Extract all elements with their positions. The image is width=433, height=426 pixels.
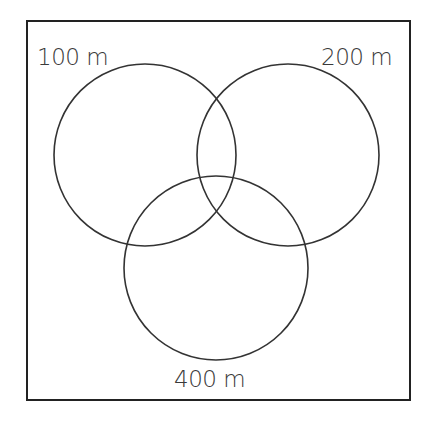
venn-diagram: 100 m 200 m 400 m — [0, 0, 433, 426]
circle-200m — [197, 64, 379, 246]
label-400m: 400 m — [174, 368, 245, 391]
label-200m: 200 m — [321, 46, 392, 69]
circle-400m — [124, 176, 308, 360]
diagram-frame — [27, 21, 410, 400]
label-100m: 100 m — [37, 46, 108, 69]
circle-100m — [54, 64, 236, 246]
